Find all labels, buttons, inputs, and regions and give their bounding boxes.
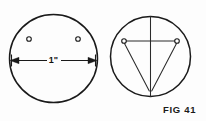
left-view-hole-right-icon — [76, 37, 81, 42]
left-view-group: 1" — [10, 15, 98, 103]
right-view-hole-left-icon — [122, 39, 127, 44]
left-view-hole-left-icon — [27, 37, 32, 42]
diagonal-line-left — [125, 44, 150, 92]
figure-caption: FIG 41 — [163, 104, 196, 115]
diagonal-line-right — [152, 44, 177, 92]
diameter-dimension: 1" — [10, 54, 97, 67]
dimension-label: 1" — [49, 55, 58, 65]
figure-canvas: 1" FIG 41 — [0, 0, 206, 121]
technical-drawing-svg: 1" FIG 41 — [0, 0, 206, 121]
right-view-hole-right-icon — [175, 39, 180, 44]
right-view-group — [111, 17, 191, 97]
